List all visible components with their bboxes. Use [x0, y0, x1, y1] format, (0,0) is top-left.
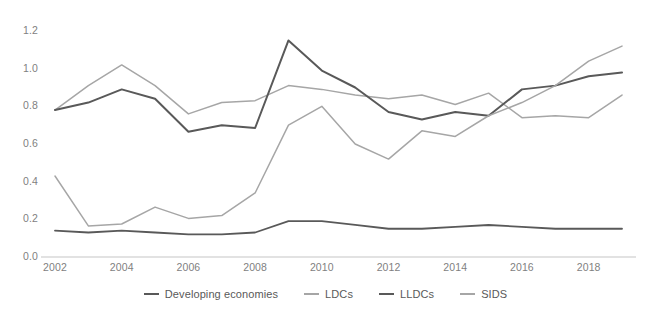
legend-item[interactable]: LDCs [304, 288, 353, 300]
y-axis-tick-label: 0.6 [10, 137, 38, 149]
plot-svg [0, 0, 651, 270]
plot-area [0, 0, 651, 270]
x-axis-tick-label: 2004 [102, 261, 142, 273]
legend-item[interactable]: LLDCs [379, 288, 434, 300]
x-axis-tick-label: 2012 [369, 261, 409, 273]
series-line-developing-economies [55, 221, 622, 234]
y-axis-tick-label: 0.2 [10, 212, 38, 224]
series-line-ldcs [55, 65, 622, 118]
legend-line-swatch-icon [304, 293, 319, 295]
x-axis-tick-label: 2014 [435, 261, 475, 273]
y-axis-tick-label: 1.2 [10, 24, 38, 36]
x-axis-tick-label: 2008 [235, 261, 275, 273]
legend-line-swatch-icon [144, 293, 159, 295]
legend-item-label: SIDS [481, 288, 507, 300]
x-axis-tick-label: 2010 [302, 261, 342, 273]
y-axis-tick-label: 0.4 [10, 175, 38, 187]
legend-item-label: LDCs [325, 288, 353, 300]
chart-legend: Developing economiesLDCsLLDCsSIDS [0, 288, 651, 300]
series-line-lldcs [55, 40, 622, 131]
legend-item-label: LLDCs [400, 288, 434, 300]
series-line-sids [55, 46, 622, 226]
x-axis-tick-label: 2018 [569, 261, 609, 273]
legend-line-swatch-icon [460, 293, 475, 295]
x-axis-tick-label: 2006 [168, 261, 208, 273]
legend-line-swatch-icon [379, 293, 394, 295]
legend-item-label: Developing economies [165, 288, 278, 300]
y-axis-tick-label: 1.0 [10, 62, 38, 74]
y-axis-tick-label: 0.8 [10, 99, 38, 111]
legend-item[interactable]: Developing economies [144, 288, 278, 300]
x-axis-tick-label: 2002 [35, 261, 75, 273]
legend-item[interactable]: SIDS [460, 288, 507, 300]
x-axis-tick-label: 2016 [502, 261, 542, 273]
line-chart: 0.00.20.40.60.81.01.2 200220042006200820… [0, 0, 651, 318]
y-axis-tick-label: 0.0 [10, 250, 38, 262]
